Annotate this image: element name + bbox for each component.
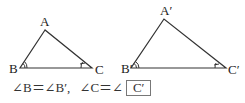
answer-box: C′ [126,80,152,96]
angle-c-tick [80,63,85,64]
angle-b-mark-inner [23,64,25,69]
statement-part1: ∠B＝∠B′, [12,80,70,95]
vertex-label-a-prime: A′ [160,4,172,17]
angle-c1-mark [215,63,216,68]
angle-equality-statement: ∠B＝∠B′, ∠C＝∠C′ [12,80,151,96]
triangle-abc [20,30,92,68]
vertex-label-c-prime: C′ [228,63,240,76]
angle-c-mark [81,62,83,68]
vertex-label-c: C [95,63,104,76]
triangle-a1b1c1 [131,19,226,68]
angle-c1-tick [214,64,219,65]
vertex-label-a: A [40,15,49,28]
vertex-label-b: B [9,62,18,75]
vertex-label-b-prime: B′ [121,62,133,75]
statement-part2: ∠C＝∠ [79,80,122,95]
angle-b1-mark-inner [134,64,137,69]
